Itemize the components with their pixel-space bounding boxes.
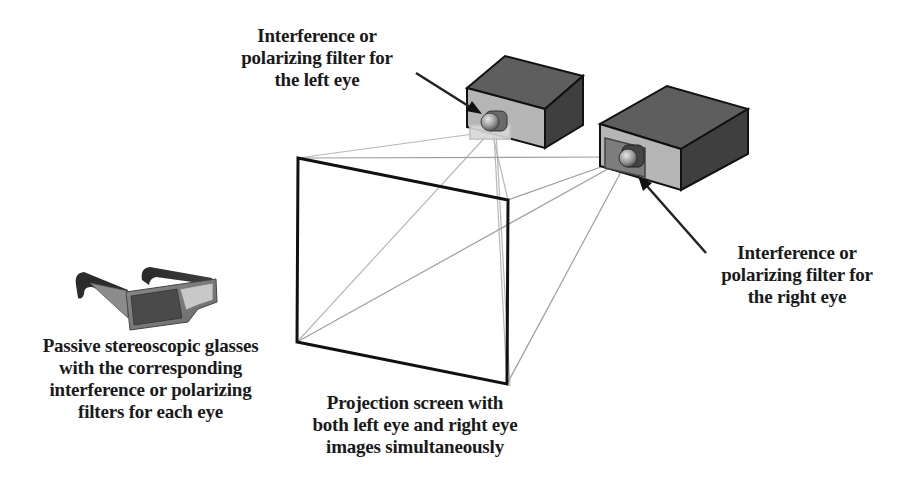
left-filter-label: Interference or polarizing filter for th… [212,25,422,91]
label-line: Passive stereoscopic glasses [18,335,283,357]
left-projector-lens [481,113,499,131]
right-projector-lens [619,149,637,167]
label-line: Interference or [692,242,902,264]
right-filter-label: Interference or polarizing filter for th… [692,242,902,308]
label-line: polarizing filter for [692,264,902,286]
label-line: Projection screen with [295,392,535,414]
left-projector [467,56,583,148]
label-line: Interference or [212,25,422,47]
right-projector [600,86,748,190]
label-line: interference or polarizing [18,379,283,401]
label-line: the right eye [692,286,902,308]
label-line: filters for each eye [18,401,283,423]
label-line: both left eye and right eye [295,414,535,436]
screen-label: Projection screen with both left eye and… [295,392,535,458]
label-line: with the corresponding [18,357,283,379]
label-line: polarizing filter for [212,47,422,69]
projection-screen [297,158,508,384]
label-line: the left eye [212,69,422,91]
label-line: images simultaneously [295,436,535,458]
stereo-glasses-icon [76,267,217,330]
glasses-label: Passive stereoscopic glasses with the co… [18,335,283,423]
